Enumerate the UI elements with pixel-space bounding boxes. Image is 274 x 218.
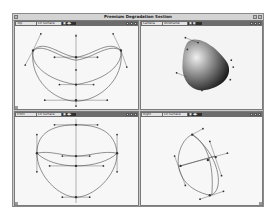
surface-curve	[37, 153, 117, 166]
viewport-camera[interactable]: Camera Wireframe ▣ ▣	[140, 20, 263, 110]
control-point	[221, 175, 223, 177]
control-point	[89, 155, 91, 157]
view-control[interactable]: ▣ ◀▶	[188, 113, 202, 116]
control-point	[199, 198, 201, 200]
control-point	[223, 190, 225, 192]
control-point	[106, 99, 108, 101]
pan-button[interactable]	[254, 22, 257, 25]
view-name-field[interactable]: Right	[142, 113, 162, 116]
maximize-view-button[interactable]	[258, 113, 261, 116]
maximize-view-button[interactable]	[258, 22, 261, 25]
control-point	[75, 99, 77, 101]
view-name-field[interactable]: Front	[16, 113, 36, 116]
control-point	[229, 79, 231, 81]
control-point	[116, 171, 118, 173]
minimize-button[interactable]	[253, 15, 257, 19]
control-point	[116, 134, 118, 136]
resize-handle[interactable]	[259, 202, 262, 205]
control-line	[180, 153, 227, 166]
camera-view-drawing	[141, 26, 262, 109]
surface-curve	[33, 48, 121, 60]
control-point	[215, 156, 217, 158]
control-point	[116, 152, 118, 154]
control-point	[97, 56, 99, 58]
control-point	[201, 90, 203, 92]
control-point	[61, 155, 63, 157]
right-view-drawing	[141, 117, 262, 205]
control-point	[126, 66, 128, 68]
resize-handle[interactable]	[15, 106, 18, 109]
control-line	[175, 156, 186, 185]
control-point	[36, 134, 38, 136]
viewport-canvas[interactable]	[15, 26, 138, 109]
control-point	[75, 83, 77, 85]
zoom-button[interactable]	[250, 113, 253, 116]
window-title: Premium Degradation Section	[13, 13, 263, 20]
control-point	[59, 84, 61, 86]
view-control[interactable]: ▣ ◀▶	[62, 22, 76, 25]
viewport-canvas[interactable]	[15, 117, 138, 205]
view-control[interactable]: ▣ ▣	[188, 22, 202, 25]
top-view-drawing	[15, 26, 138, 109]
control-point	[207, 159, 209, 161]
control-point	[186, 49, 188, 51]
control-point	[174, 155, 176, 157]
view-mode-dropdown[interactable]: Wireframe	[163, 22, 187, 25]
control-point	[232, 66, 234, 68]
control-line	[192, 129, 203, 135]
viewport-right[interactable]: Right Ctl Surface ▣ ◀▶	[140, 111, 263, 206]
pan-button[interactable]	[130, 113, 133, 116]
control-point	[202, 128, 204, 130]
control-point	[75, 155, 77, 157]
view-name-field[interactable]: Camera	[142, 22, 162, 25]
control-point	[184, 185, 186, 187]
resize-handle[interactable]	[15, 202, 18, 205]
control-point	[61, 196, 63, 198]
zoom-button[interactable]	[126, 113, 129, 116]
viewport-canvas[interactable]	[141, 117, 262, 205]
control-point	[40, 33, 42, 35]
control-point	[54, 124, 56, 126]
control-point	[93, 84, 95, 86]
control-point	[209, 194, 211, 196]
front-view-drawing	[15, 117, 138, 205]
surface-curve	[192, 135, 212, 196]
maximize-view-button[interactable]	[134, 22, 137, 25]
viewport-front[interactable]: Front Ctl Surface ▣ ◀▶	[14, 111, 139, 206]
control-point	[36, 152, 38, 154]
control-point	[32, 49, 34, 51]
view-name-field[interactable]: Top	[16, 22, 36, 25]
control-line	[25, 50, 33, 65]
viewport-top[interactable]: Top Ctl Surface ▣ ◀▶	[14, 20, 139, 110]
control-point	[89, 196, 91, 198]
control-point	[185, 37, 187, 39]
pan-button[interactable]	[130, 22, 133, 25]
surface-curve	[33, 50, 122, 101]
shaded-surface	[182, 40, 229, 91]
pan-button[interactable]	[254, 113, 257, 116]
control-point	[191, 133, 193, 135]
view-mode-dropdown[interactable]: Ctl Surface	[163, 113, 187, 116]
control-point	[227, 152, 229, 154]
view-control[interactable]: ▣ ◀▶	[62, 113, 76, 116]
view-mode-dropdown[interactable]: Ctl Surface	[37, 22, 61, 25]
control-point	[75, 105, 77, 107]
maximize-button[interactable]	[258, 15, 262, 19]
zoom-button[interactable]	[126, 22, 129, 25]
control-point	[120, 49, 122, 51]
viewport-canvas[interactable]	[141, 26, 262, 109]
zoom-button[interactable]	[250, 22, 253, 25]
control-point	[179, 165, 181, 167]
maximize-view-button[interactable]	[134, 113, 137, 116]
control-point	[75, 56, 77, 58]
control-point	[75, 196, 77, 198]
control-point	[197, 42, 199, 44]
control-point	[75, 69, 77, 71]
control-point	[49, 165, 51, 167]
control-point	[112, 33, 114, 35]
control-point	[176, 72, 178, 74]
control-point	[103, 165, 105, 167]
surface-curve	[37, 153, 117, 197]
control-point	[75, 165, 77, 167]
view-mode-dropdown[interactable]: Ctl Surface	[37, 113, 61, 116]
